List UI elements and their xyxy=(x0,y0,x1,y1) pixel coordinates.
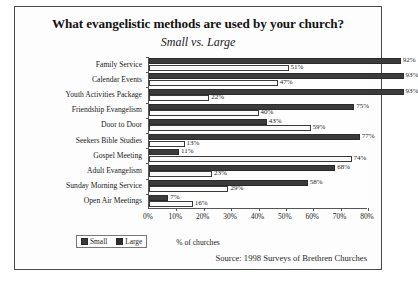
bar-group: 13% xyxy=(149,141,368,147)
bar-value-label: 23% xyxy=(214,170,227,177)
bar-large xyxy=(149,125,311,131)
bar-large xyxy=(149,110,259,116)
bar-value-label: 13% xyxy=(187,140,200,147)
bar-large xyxy=(149,65,289,71)
bar-value-label: 16% xyxy=(195,200,208,207)
bar-group: 16% xyxy=(149,201,368,207)
bar-value-label: 22% xyxy=(211,94,224,101)
x-axis-tick xyxy=(204,208,205,211)
bar-large xyxy=(149,186,228,192)
category-label: Friendship Evangelism xyxy=(72,106,142,114)
bar-small xyxy=(149,89,404,95)
bar-group: 58% xyxy=(149,180,368,186)
x-axis-tick xyxy=(259,208,260,211)
category-label: Open Air Meetings xyxy=(84,197,142,205)
bar-small xyxy=(149,180,308,186)
bar-small xyxy=(149,149,179,155)
chart-title: What evangelistic methods are used by yo… xyxy=(15,16,381,32)
bar-value-label: 29% xyxy=(230,185,243,192)
x-axis-tick xyxy=(341,208,342,211)
bar-small xyxy=(149,119,267,125)
bar-value-label: 59% xyxy=(313,124,326,131)
x-axis-tick xyxy=(286,208,287,211)
bar-large xyxy=(149,171,212,177)
bar-group: 40% xyxy=(149,110,368,116)
category-label: Calendar Events xyxy=(92,76,142,84)
bar-group: 59% xyxy=(149,125,368,131)
category-label: Sunday Morning Service xyxy=(66,182,142,190)
bar-value-label: 58% xyxy=(310,179,323,186)
bar-group: 92% xyxy=(149,58,368,64)
x-axis-tick-label: 60% xyxy=(305,212,319,221)
x-axis-tick-label: 70% xyxy=(333,212,347,221)
source-note: Source: 1998 Surveys of Brethren Churche… xyxy=(215,253,367,263)
bar-small xyxy=(149,195,168,201)
category-label: Youth Activities Package xyxy=(66,91,142,99)
bar-group: 23% xyxy=(149,171,368,177)
bar-group: 11% xyxy=(149,149,368,155)
bar-small xyxy=(149,73,404,79)
bar-large xyxy=(149,141,185,147)
bar-group: 75% xyxy=(149,104,368,110)
x-axis-tick-label: 10% xyxy=(169,212,183,221)
bar-value-label: 51% xyxy=(291,64,304,71)
plot-wrapper: Family ServiceCalendar EventsYouth Activ… xyxy=(21,57,377,232)
bar-large xyxy=(149,156,352,162)
bar-group: 43% xyxy=(149,119,368,125)
bar-value-label: 40% xyxy=(261,109,274,116)
chart-subtitle: Small vs. Large xyxy=(15,35,381,50)
bar-value-label: 11% xyxy=(181,148,194,155)
x-axis-tick-label: 0% xyxy=(143,212,153,221)
bar-group: 29% xyxy=(149,186,368,192)
bar-large xyxy=(149,95,209,101)
bar-group: 93% xyxy=(149,73,368,79)
bar-value-label: 93% xyxy=(406,72,418,79)
category-label: Family Service xyxy=(96,61,142,69)
bar-small xyxy=(149,165,335,171)
bar-group: 51% xyxy=(149,65,368,71)
bar-value-label: 7% xyxy=(170,194,179,201)
category-label: Door to Door xyxy=(101,121,142,129)
bar-group: 77% xyxy=(149,134,368,140)
bar-value-label: 43% xyxy=(269,118,282,125)
chart-frame: What evangelistic methods are used by yo… xyxy=(14,6,382,270)
bar-small xyxy=(149,104,354,110)
bar-group: 74% xyxy=(149,156,368,162)
x-axis-tick xyxy=(231,208,232,211)
x-axis-tick-label: 20% xyxy=(196,212,210,221)
x-axis-tick-label: 30% xyxy=(223,212,237,221)
bar-value-label: 74% xyxy=(354,155,367,162)
bar-value-label: 68% xyxy=(337,164,350,171)
bar-large xyxy=(149,80,278,86)
bar-value-label: 93% xyxy=(406,88,418,95)
x-axis-tick xyxy=(313,208,314,211)
x-axis-tick xyxy=(368,208,369,211)
x-axis-tick-label: 40% xyxy=(251,212,265,221)
category-label: Adult Evangelism xyxy=(87,167,142,175)
x-axis-title: % of churches xyxy=(15,238,381,247)
bar-value-label: 47% xyxy=(280,79,293,86)
x-axis-tick-label: 50% xyxy=(278,212,292,221)
bar-small xyxy=(149,134,360,140)
bar-value-label: 77% xyxy=(362,133,375,140)
bar-small xyxy=(149,58,401,64)
plot-area: 92%93%93%75%43%77%11%68%58%7%51%47%22%40… xyxy=(148,57,367,209)
bar-group: 7% xyxy=(149,195,368,201)
x-axis-tick-label: 80% xyxy=(360,212,374,221)
bar-group: 93% xyxy=(149,89,368,95)
category-label: Seekers Bible Studies xyxy=(76,137,142,145)
x-axis-tick xyxy=(176,208,177,211)
bar-group: 68% xyxy=(149,165,368,171)
category-label: Gospel Meeting xyxy=(93,152,142,160)
bar-value-label: 92% xyxy=(403,57,416,64)
category-axis: Family ServiceCalendar EventsYouth Activ… xyxy=(21,57,145,209)
bar-value-label: 75% xyxy=(356,103,369,110)
bar-large xyxy=(149,201,193,207)
bar-group: 22% xyxy=(149,95,368,101)
bar-group: 47% xyxy=(149,80,368,86)
